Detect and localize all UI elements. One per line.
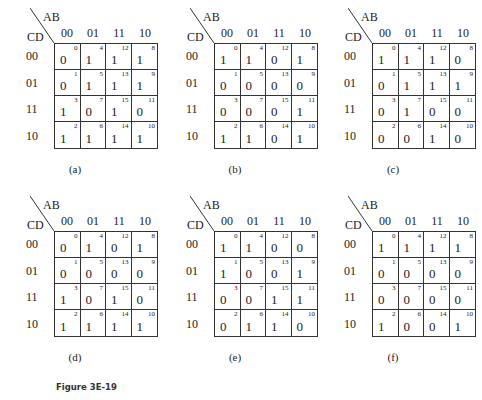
- kmap-cell: 90: [292, 70, 318, 96]
- kmap-cell: 110: [450, 284, 476, 310]
- cell-value: 1: [297, 53, 304, 67]
- minterm-index: 5: [260, 258, 264, 266]
- minterm-index: 7: [260, 96, 264, 104]
- cell-value: 1: [429, 79, 436, 93]
- kmap-cell: 90: [450, 258, 476, 284]
- row-header: 11: [26, 102, 48, 117]
- kmap-cell: 30: [373, 284, 399, 310]
- column-variable-label: AB: [361, 10, 378, 25]
- kmap-cell: 150: [266, 96, 292, 122]
- minterm-index: 9: [152, 258, 156, 266]
- kmap-cell: 10: [55, 258, 81, 284]
- cell-value: 0: [429, 320, 436, 334]
- minterm-index: 12: [282, 44, 289, 52]
- cell-value: 0: [86, 267, 93, 281]
- cell-value: 0: [271, 53, 278, 67]
- cell-value: 1: [404, 105, 411, 119]
- kmap-grid: 00411208110501309031701511102161141101: [54, 231, 158, 337]
- cell-value: 1: [455, 320, 462, 334]
- column-header: 11: [424, 26, 450, 41]
- minterm-index: 8: [312, 232, 316, 240]
- minterm-index: 7: [260, 284, 264, 292]
- cell-value: 0: [246, 79, 253, 93]
- minterm-index: 10: [466, 122, 473, 130]
- minterm-index: 15: [440, 96, 447, 104]
- cell-value: 1: [137, 53, 144, 67]
- cell-value: 1: [220, 267, 227, 281]
- kmap-cell: 41: [399, 44, 425, 70]
- figure-caption: Figure 3E-19: [56, 382, 117, 392]
- minterm-index: 13: [440, 70, 447, 78]
- minterm-index: 10: [148, 310, 155, 318]
- row-header: 11: [344, 102, 366, 117]
- cell-value: 0: [220, 293, 227, 307]
- row-variable-label: CD: [187, 30, 204, 45]
- cell-value: 1: [86, 320, 93, 334]
- cell-value: 0: [455, 267, 462, 281]
- minterm-index: 6: [418, 122, 422, 130]
- cell-value: 0: [246, 105, 253, 119]
- kmap-cell: 141: [424, 122, 450, 148]
- kmap-cell: 01: [373, 44, 399, 70]
- minterm-index: 2: [234, 122, 238, 130]
- minterm-index: 10: [466, 310, 473, 318]
- kmap-cell: 120: [106, 232, 132, 258]
- kmap-cell: 01: [373, 232, 399, 258]
- cell-value: 1: [455, 241, 462, 255]
- minterm-index: 3: [74, 96, 78, 104]
- column-header: 10: [450, 214, 476, 229]
- minterm-index: 1: [392, 70, 396, 78]
- minterm-index: 13: [122, 258, 129, 266]
- minterm-index: 5: [418, 258, 422, 266]
- minterm-index: 4: [100, 44, 104, 52]
- row-header: 11: [26, 290, 48, 305]
- minterm-index: 5: [418, 70, 422, 78]
- cell-value: 1: [455, 79, 462, 93]
- cell-value: 0: [404, 293, 411, 307]
- minterm-index: 9: [152, 70, 156, 78]
- cell-value: 1: [60, 293, 67, 307]
- cell-value: 1: [111, 79, 118, 93]
- minterm-index: 2: [392, 310, 396, 318]
- kmap-cell: 30: [215, 96, 241, 122]
- column-header: 11: [424, 214, 450, 229]
- cell-value: 0: [220, 320, 227, 334]
- minterm-index: 2: [74, 122, 78, 130]
- row-variable-label: CD: [27, 30, 44, 45]
- cell-value: 0: [86, 293, 93, 307]
- kmap-cell: 70: [241, 96, 267, 122]
- minterm-index: 1: [74, 258, 78, 266]
- row-header: 00: [186, 49, 208, 64]
- kmap-cell: 120: [266, 44, 292, 70]
- kmap-cell: 81: [132, 232, 158, 258]
- row-header: 00: [26, 49, 48, 64]
- kmap-cell: 20: [373, 122, 399, 148]
- cell-value: 0: [455, 132, 462, 146]
- kmap-cell: 91: [450, 70, 476, 96]
- kmap-cell: 100: [450, 122, 476, 148]
- kmap-cell: 140: [424, 310, 450, 336]
- cell-value: 1: [404, 53, 411, 67]
- column-header: 01: [240, 214, 266, 229]
- column-header: 11: [106, 214, 132, 229]
- cell-value: 0: [404, 132, 411, 146]
- minterm-index: 11: [466, 96, 473, 104]
- column-header: 10: [450, 26, 476, 41]
- column-header: 01: [240, 26, 266, 41]
- map-label: (a): [0, 163, 150, 175]
- kmap-cell: 111: [292, 96, 318, 122]
- minterm-index: 12: [282, 232, 289, 240]
- map-label: (b): [160, 163, 310, 175]
- minterm-index: 4: [260, 232, 264, 240]
- minterm-index: 1: [392, 258, 396, 266]
- cell-value: 0: [455, 53, 462, 67]
- kmap-cell: 61: [241, 122, 267, 148]
- row-header: 10: [26, 317, 48, 332]
- kmap-cell: 10: [215, 70, 241, 96]
- kmap-grid: 01411208011501309130701511112061141100: [214, 231, 318, 337]
- kmap-cell: 91: [292, 258, 318, 284]
- kmap-cell: 30: [215, 284, 241, 310]
- minterm-index: 4: [100, 232, 104, 240]
- karnaugh-map-d: AB CD 00011110 00011110 0041120811050130…: [0, 196, 150, 356]
- column-header: 00: [214, 26, 240, 41]
